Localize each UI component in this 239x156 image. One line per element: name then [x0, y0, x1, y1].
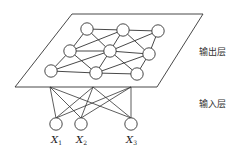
input-label: X2 — [75, 134, 87, 146]
input-label: X1 — [50, 134, 62, 146]
output-node — [104, 45, 116, 57]
input-node — [125, 118, 137, 130]
som-diagram: X1X2X3 输出层 输入层 — [0, 0, 239, 156]
input-labels: X1X2X3 — [50, 134, 137, 146]
output-node — [64, 45, 76, 57]
input-layer-nodes — [50, 118, 137, 130]
connection-line — [50, 87, 81, 118]
input-layer-label: 输入层 — [199, 98, 226, 109]
input-node — [75, 118, 87, 130]
output-node — [143, 48, 155, 60]
output-node — [117, 24, 129, 36]
output-layer-label: 输出层 — [199, 46, 226, 57]
output-node — [45, 65, 57, 77]
edge-line — [51, 71, 96, 73]
output-node — [81, 23, 93, 35]
output-node — [152, 25, 164, 37]
connection-line — [93, 87, 131, 118]
input-output-connections — [50, 87, 131, 118]
input-label: X3 — [125, 134, 137, 146]
output-node — [90, 67, 102, 79]
input-node — [50, 118, 62, 130]
output-node — [131, 68, 143, 80]
edge-line — [51, 51, 110, 71]
connection-line — [81, 87, 131, 118]
